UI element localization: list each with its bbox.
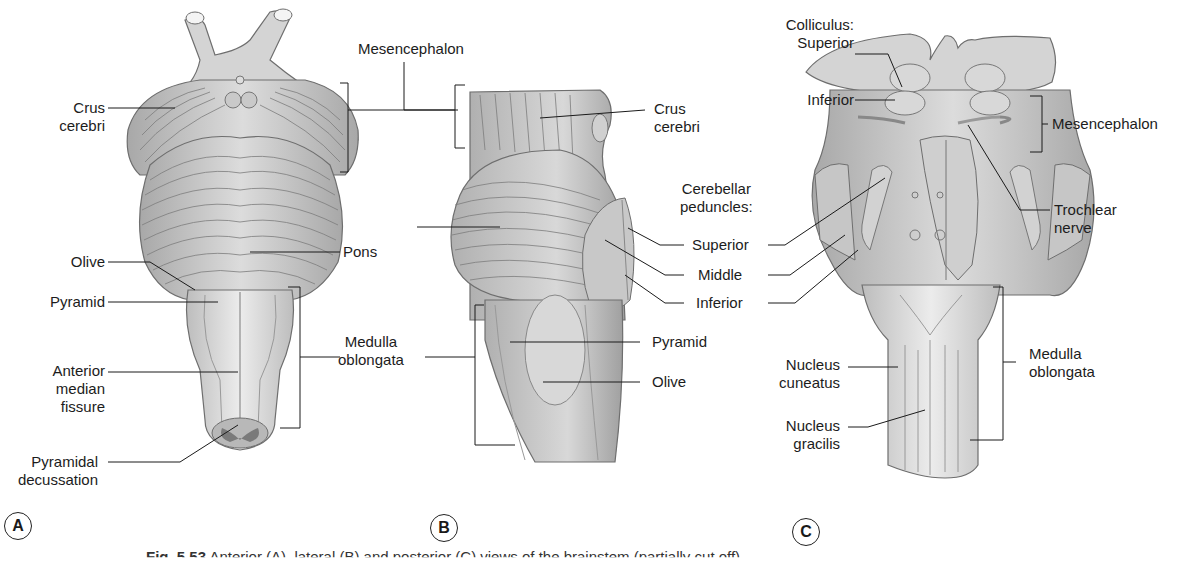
label-cerebellar-peduncles: Cerebellar peduncles: — [680, 180, 753, 216]
panel-letter-a: A — [4, 512, 32, 540]
label-medulla-oblongata-a: Medulla oblongata — [338, 333, 404, 369]
label-pons: Pons — [343, 243, 377, 261]
label-mesencephalon-c: Mesencephalon — [1052, 115, 1158, 133]
label-colliculus: Colliculus: Superior — [786, 16, 854, 52]
label-medulla-oblongata-c: Medulla oblongata — [1029, 345, 1095, 381]
label-peduncle-superior: Superior — [692, 236, 749, 254]
label-trochlear-nerve: Trochlear nerve — [1054, 201, 1117, 237]
panel-a-anterior-view — [108, 9, 458, 462]
label-mesencephalon-a: Mesencephalon — [358, 40, 464, 58]
panel-letter-c: C — [792, 518, 820, 546]
label-pyramidal-decussation: Pyramidal decussation — [18, 453, 98, 489]
panel-letter-b: B — [430, 514, 458, 542]
label-crus-cerebri-b: Crus cerebri — [654, 100, 700, 136]
label-crus-cerebri-a: Crus cerebri — [59, 99, 105, 135]
brainstem-illustration — [0, 0, 1180, 561]
label-olive-b: Olive — [652, 373, 686, 391]
panel-b-lateral-view — [404, 85, 684, 462]
label-pyramid-b: Pyramid — [652, 333, 707, 351]
label-peduncle-middle: Middle — [698, 266, 742, 284]
label-olive-a: Olive — [71, 253, 105, 271]
label-nucleus-cuneatus: Nucleus cuneatus — [779, 356, 840, 392]
label-colliculus-inferior: Inferior — [807, 91, 854, 109]
label-nucleus-gracilis: Nucleus gracilis — [786, 417, 840, 453]
label-anterior-median-fissure: Anterior median fissure — [52, 362, 105, 416]
label-peduncle-inferior: Inferior — [696, 294, 743, 312]
label-pyramid-a: Pyramid — [50, 293, 105, 311]
